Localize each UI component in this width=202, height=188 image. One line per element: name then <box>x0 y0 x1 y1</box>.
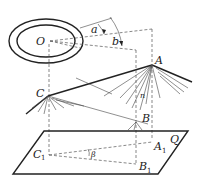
label-a: A <box>154 54 163 67</box>
label-a1-sub: 1 <box>162 147 166 155</box>
label-b1: B <box>138 160 147 173</box>
ridge-lines <box>26 65 192 124</box>
label-n: n <box>140 91 145 100</box>
label-q: Q <box>170 133 179 146</box>
plane-projections <box>49 142 152 164</box>
label-b-angle: b <box>112 35 119 48</box>
ring-ellipse <box>9 19 83 63</box>
label-c: C <box>36 87 45 100</box>
label-o: O <box>36 35 45 48</box>
label-a-angle: a <box>91 23 98 36</box>
label-b1-sub: 1 <box>147 167 151 175</box>
label-c1-sub: 1 <box>41 154 45 162</box>
geometry-diagram: O a b A C B n Q C 1 A 1 B 1 β <box>0 0 202 188</box>
hatch-a <box>76 65 188 110</box>
o-projection-lines <box>49 29 152 155</box>
label-b: B <box>141 112 150 125</box>
hatch-b <box>128 122 142 130</box>
label-beta: β <box>90 150 96 159</box>
label-a1: A <box>153 140 162 153</box>
